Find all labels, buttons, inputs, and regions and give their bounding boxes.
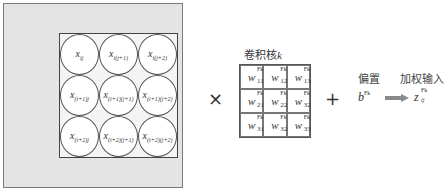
kernel-weight: wFk32 bbox=[263, 113, 286, 137]
neuron-circle: x(i+2)j bbox=[60, 116, 99, 157]
kernel-matrix: wFk11 wFk12 wFk13 wFk21 wFk22 wFk32 wFk3… bbox=[239, 64, 311, 138]
kernel-weight: wFk32 bbox=[287, 89, 310, 113]
input-cell: x(i+1)(j+1) bbox=[99, 75, 138, 116]
input-cell: xi(j+1) bbox=[99, 34, 138, 75]
kernel-weight: wFk11 bbox=[240, 65, 263, 89]
kernel-weight: wFk31 bbox=[240, 113, 263, 137]
bias-term: bFk bbox=[358, 90, 370, 105]
input-cell: x(i+2)j bbox=[60, 116, 99, 157]
kernel-weight: wFk21 bbox=[240, 89, 263, 113]
neuron-circle: xi(j+1) bbox=[99, 34, 138, 75]
neuron-circle: x(i+1)(j+2) bbox=[138, 75, 177, 116]
input-cell: x(i+1)(j+2) bbox=[138, 75, 177, 116]
plus-operator: + bbox=[325, 88, 340, 109]
input-cell: xij bbox=[60, 34, 99, 75]
kernel-weight: wFk12 bbox=[263, 65, 286, 89]
input-feature-map-padded: xij xi(j+1) xi(j+2) x(i+1)j x(i+1)(j+1) … bbox=[3, 3, 183, 188]
kernel-weight: wFk13 bbox=[287, 65, 310, 89]
input-cell: xi(j+2) bbox=[138, 34, 177, 75]
neuron-circle: x(i+2)(j+2) bbox=[138, 116, 177, 157]
input-cell: x(i+1)j bbox=[60, 75, 99, 116]
neuron-circle: x(i+2)(j+1) bbox=[99, 116, 138, 157]
arrow-right-icon bbox=[385, 94, 409, 102]
multiply-operator: × bbox=[208, 88, 223, 109]
bias-label: 偏置 bbox=[358, 70, 380, 86]
neuron-circle: x(i+1)j bbox=[60, 75, 99, 116]
receptive-field-3x3: xij xi(j+1) xi(j+2) x(i+1)j x(i+1)(j+1) … bbox=[59, 33, 178, 158]
neuron-circle: x(i+1)(j+1) bbox=[99, 75, 138, 116]
weighted-input-label: 加权输入 bbox=[400, 70, 444, 86]
neuron-circle: xij bbox=[60, 34, 99, 75]
weighted-input-term: zFkij bbox=[414, 90, 419, 105]
input-cell: x(i+2)(j+2) bbox=[138, 116, 177, 157]
input-cell: x(i+2)(j+1) bbox=[99, 116, 138, 157]
kernel-weight: wFk33 bbox=[287, 113, 310, 137]
kernel-weight: wFk22 bbox=[263, 89, 286, 113]
neuron-circle: xi(j+2) bbox=[138, 34, 177, 75]
kernel-title: 卷积核k bbox=[244, 46, 282, 62]
